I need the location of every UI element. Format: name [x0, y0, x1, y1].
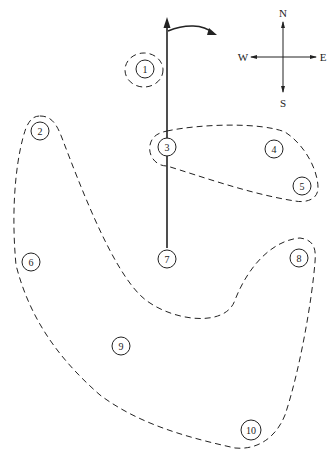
node-10: 10: [241, 420, 261, 440]
compass-label-north: N: [279, 7, 287, 19]
node-2: 2: [31, 122, 49, 140]
node-9-label: 9: [119, 341, 124, 352]
node-8-label: 8: [297, 253, 302, 264]
node-8: 8: [290, 249, 308, 267]
compass-label-west: W: [238, 51, 249, 63]
north-arrow-icon: [281, 21, 285, 28]
compass-label-east: E: [320, 51, 327, 63]
node-4-label: 4: [272, 144, 277, 155]
node-2-label: 2: [38, 126, 43, 137]
node-6: 6: [22, 253, 40, 271]
node-5-label: 5: [300, 181, 305, 192]
node-7: 7: [158, 250, 176, 268]
node-10-label: 10: [246, 425, 256, 436]
diagram-canvas: N S W E 1 2 3 4 5 6 7 8: [0, 0, 332, 458]
node-3-label: 3: [165, 142, 170, 153]
east-arrow-icon: [310, 55, 317, 59]
cluster-boundary-3-4-5: [150, 125, 318, 201]
node-6-label: 6: [29, 257, 34, 268]
vertical-axis-line: [164, 17, 171, 248]
node-5: 5: [293, 177, 311, 195]
axis-arrowhead-icon: [164, 17, 171, 28]
south-arrow-icon: [281, 86, 285, 93]
west-arrow-icon: [250, 55, 257, 59]
node-4: 4: [265, 140, 283, 158]
node-3: 3: [158, 138, 176, 156]
compass-label-south: S: [280, 97, 286, 109]
diagram-svg: N S W E 1 2 3 4 5 6 7 8: [0, 0, 332, 458]
node-1-label: 1: [143, 64, 148, 75]
node-9: 9: [112, 337, 130, 355]
node-1: 1: [136, 60, 154, 78]
compass-rose: N S W E: [238, 7, 327, 109]
rotation-arrow-icon: [168, 26, 217, 35]
node-7-label: 7: [165, 254, 170, 265]
